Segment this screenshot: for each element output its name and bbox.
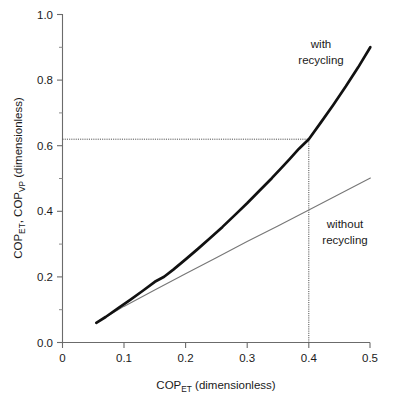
x-tick-label-1: 0.1 bbox=[116, 352, 132, 364]
chart-plot-area: 0.0 0.2 0.4 0.6 0.8 1.0 0 0.1 0.2 0.3 0.… bbox=[0, 0, 393, 405]
with-recycling-label-line1: with bbox=[310, 38, 331, 50]
y-axis-title-subscript-1: ET bbox=[17, 223, 27, 234]
y-axis-title-subscript-2: VP bbox=[17, 180, 27, 192]
without-recycling-label-line2: recycling bbox=[322, 234, 367, 246]
x-tick-labels: 0 0.1 0.2 0.3 0.4 0.5 bbox=[59, 352, 378, 364]
y-axis-title-mid: , COP bbox=[12, 192, 24, 224]
y-axis-title: COPET, COPVP (dimensionless) bbox=[12, 97, 27, 259]
x-axis-title: COPET (dimensionless) bbox=[156, 379, 275, 394]
x-tick-label-4: 0.4 bbox=[301, 352, 318, 364]
series-with-recycling bbox=[96, 47, 370, 323]
y-tick-label-5: 1.0 bbox=[37, 9, 53, 21]
y-axis-title-tail: (dimensionless) bbox=[12, 97, 24, 181]
x-axis-title-main: COP bbox=[156, 379, 181, 391]
y-tick-label-3: 0.6 bbox=[37, 140, 53, 152]
y-axis-title-main: COP bbox=[12, 234, 24, 259]
y-tick-labels: 0.0 0.2 0.4 0.6 0.8 1.0 bbox=[37, 9, 54, 349]
x-axis-title-subscript: ET bbox=[181, 384, 192, 394]
without-recycling-label-line1: without bbox=[326, 218, 364, 230]
y-tick-label-2: 0.4 bbox=[37, 205, 54, 217]
x-axis-title-tail: (dimensionless) bbox=[192, 379, 276, 391]
x-axis-major-ticks bbox=[63, 343, 371, 349]
chart-figure: 0.0 0.2 0.4 0.6 0.8 1.0 0 0.1 0.2 0.3 0.… bbox=[0, 0, 393, 405]
without-recycling-label: without recycling bbox=[322, 218, 367, 246]
x-tick-label-2: 0.2 bbox=[178, 352, 194, 364]
y-tick-label-4: 0.8 bbox=[37, 74, 53, 86]
y-tick-label-0: 0.0 bbox=[37, 337, 53, 349]
x-tick-label-0: 0 bbox=[59, 352, 65, 364]
x-tick-label-5: 0.5 bbox=[362, 352, 378, 364]
with-recycling-label-line2: recycling bbox=[298, 54, 343, 66]
y-tick-label-1: 0.2 bbox=[37, 271, 53, 283]
series-without-recycling bbox=[96, 178, 370, 323]
with-recycling-label: with recycling bbox=[298, 38, 343, 66]
guide-lines bbox=[63, 139, 309, 342]
x-tick-label-3: 0.3 bbox=[239, 352, 255, 364]
